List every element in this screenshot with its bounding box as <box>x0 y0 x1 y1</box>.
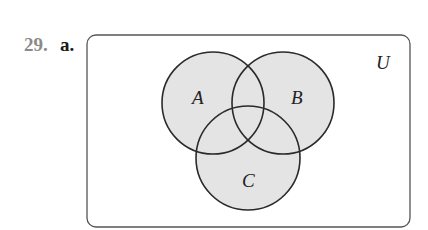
set-a-label: A <box>190 87 204 108</box>
venn-diagram: A B C U <box>0 0 428 230</box>
set-c-label: C <box>242 170 255 191</box>
universe-label: U <box>376 52 391 73</box>
set-b-label: B <box>291 87 303 108</box>
